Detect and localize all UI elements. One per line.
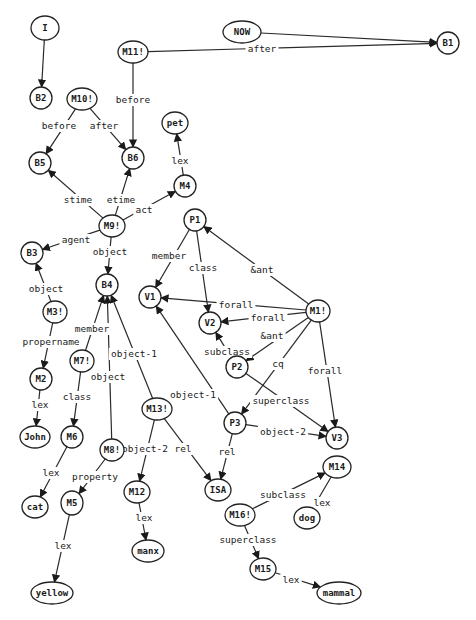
node-label: M5 <box>67 498 78 508</box>
edge-label: object-2 <box>258 426 308 438</box>
node-M1: M1! <box>306 300 330 322</box>
edge-label: superclass <box>217 534 279 546</box>
node-mammal: mammal <box>317 582 361 604</box>
node-label: V3 <box>332 433 343 443</box>
node-label: B1 <box>443 38 454 48</box>
edge-label: lex <box>311 497 332 509</box>
node-label: B5 <box>35 158 46 168</box>
node-label: P2 <box>232 362 243 372</box>
node-M15: M15 <box>250 558 276 580</box>
edge-label: object-1 <box>109 348 159 360</box>
node-label: V1 <box>145 292 156 302</box>
edge-label: lex <box>40 467 61 479</box>
edge-label-text: member <box>152 250 187 261</box>
network-graph: afterbeforebeforeafterlexstimeetimeactag… <box>0 0 476 620</box>
edge-label: stime <box>62 194 95 206</box>
node-B2: B2 <box>30 87 52 109</box>
node-M7: M7! <box>70 350 94 372</box>
edge-label: before <box>114 94 153 106</box>
edge-label: subclass <box>202 346 252 358</box>
node-M8: M8! <box>100 439 124 461</box>
edge-label: lex <box>29 399 50 411</box>
node-V1: V1 <box>139 286 161 308</box>
node-pet: pet <box>162 112 188 134</box>
edge-label-text: class <box>189 262 218 273</box>
edge-label-text: object <box>91 371 125 382</box>
edge-label-text: stime <box>64 194 93 205</box>
edge-label-text: after <box>90 120 119 131</box>
edge-label: object <box>89 371 128 383</box>
edge-label-text: object-1 <box>111 348 157 359</box>
node-label: M12 <box>129 487 145 497</box>
node-B6: B6 <box>122 147 144 169</box>
node-label: M3! <box>47 307 63 317</box>
edge-label-text: propername <box>22 336 79 347</box>
edge-label-text: object-2 <box>122 443 168 454</box>
node-label: M10! <box>71 94 93 104</box>
edge-label-text: lex <box>171 155 188 166</box>
edge-label-text: etime <box>107 194 136 205</box>
node-M13: M13! <box>142 398 172 420</box>
node-label: M6 <box>67 432 78 442</box>
edge-label-text: cq <box>272 358 283 369</box>
edge-label: etime <box>105 194 138 206</box>
edge-label-text: class <box>63 391 92 402</box>
node-label: dog <box>299 513 315 523</box>
node-label: pet <box>167 118 183 128</box>
node-B3: B3 <box>21 242 43 264</box>
edge-label-text: subclass <box>260 489 306 500</box>
node-I: I <box>31 16 59 40</box>
edge-label: superclass <box>250 395 312 407</box>
node-M10: M10! <box>67 88 97 110</box>
edge-label: lex <box>280 574 301 586</box>
edge-label: class <box>187 262 220 274</box>
edge-label: cq <box>270 358 286 370</box>
node-M12: M12 <box>124 481 150 503</box>
edge-label: after <box>88 120 121 132</box>
edge-label: rel <box>216 446 237 458</box>
node-label: NOW <box>234 27 251 37</box>
edge-label: propername <box>20 336 82 348</box>
node-label: M7! <box>74 356 90 366</box>
edge-label: lex <box>133 512 154 524</box>
node-M5: M5 <box>61 491 83 515</box>
node-yellow: yellow <box>31 582 73 604</box>
semantic-network-diagram: afterbeforebeforeafterlexstimeetimeactag… <box>0 0 476 620</box>
edge-label-text: lex <box>42 467 59 478</box>
node-label: M16! <box>229 510 251 520</box>
edge-label-text: subclass <box>204 346 250 357</box>
node-label: B3 <box>27 248 38 258</box>
edge-label-text: &ant <box>251 264 274 275</box>
edge-label-text: forall <box>219 299 253 310</box>
node-label: I <box>42 23 47 33</box>
node-label: B6 <box>128 153 139 163</box>
edge-M9-B6 <box>115 169 130 216</box>
edge-NOW-B1 <box>261 33 437 42</box>
edge-label: act <box>133 204 154 216</box>
edge-label-text: rel <box>218 446 235 457</box>
edge-label-text: forall <box>308 365 342 376</box>
node-label: M1! <box>310 306 326 316</box>
node-label: M2 <box>36 374 47 384</box>
node-label: P3 <box>230 418 241 428</box>
node-B1: B1 <box>437 32 459 54</box>
edge-label: forall <box>249 312 288 324</box>
node-B4: B4 <box>96 274 118 296</box>
edge-label: agent <box>60 234 93 246</box>
node-John: John <box>20 426 50 448</box>
node-label: M9! <box>104 221 120 231</box>
edge-label-text: lex <box>135 512 152 523</box>
node-label: P1 <box>190 215 201 225</box>
edge-M13-B4 <box>111 295 153 398</box>
node-V2: V2 <box>199 312 221 334</box>
edge-label: forall <box>306 365 345 377</box>
node-M2: M2 <box>30 368 52 390</box>
edge-label-text: act <box>135 204 152 215</box>
node-label: yellow <box>36 588 69 598</box>
edge-label: member <box>150 250 189 262</box>
node-label: V2 <box>205 318 216 328</box>
node-label: M13! <box>146 404 168 414</box>
edge-label: rel <box>172 443 193 455</box>
node-M6: M6 <box>61 426 83 448</box>
node-label: M11! <box>122 47 144 57</box>
